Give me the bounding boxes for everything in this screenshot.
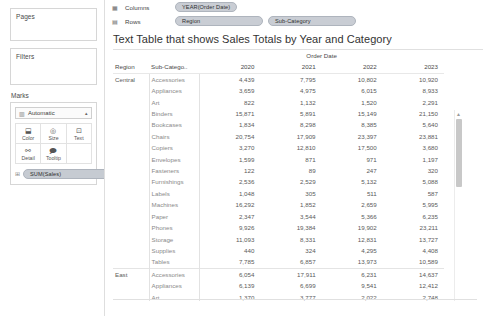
table-row[interactable]: Envelopes1,5998719711,197 — [113, 154, 444, 165]
cell-sales-2023[interactable]: 23,881 — [383, 131, 444, 142]
pill-region[interactable]: Region — [175, 16, 263, 26]
cell-sales-2023[interactable]: 14,637 — [383, 268, 444, 280]
cell-sales-2021[interactable]: 2,529 — [260, 176, 321, 187]
cell-sales-2020[interactable]: 2,536 — [199, 176, 260, 187]
table-row[interactable]: Storage11,0938,33112,83113,727 — [113, 234, 444, 245]
pill-year-order-date[interactable]: YEAR(Order Date) — [175, 2, 237, 12]
cell-sales-2022[interactable]: 9,541 — [322, 280, 383, 291]
cell-sales-2020[interactable]: 11,093 — [199, 234, 260, 245]
cell-sales-2020[interactable]: 3,270 — [199, 142, 260, 153]
marks-tooltip-button[interactable]: 🗩 Tooltip — [41, 144, 66, 164]
cell-sales-2020[interactable]: 3,659 — [199, 85, 260, 96]
cell-sales-2021[interactable]: 871 — [260, 154, 321, 165]
table-row[interactable]: Paper2,3473,5445,3666,235 — [113, 211, 444, 222]
cell-sales-2020[interactable]: 20,754 — [199, 131, 260, 142]
scroll-up-arrow-icon[interactable]: ▲ — [455, 110, 462, 117]
cell-sales-2022[interactable]: 15,149 — [322, 108, 383, 119]
table-row[interactable]: EastAccessories6,05417,9116,23114,637 — [113, 268, 444, 280]
table-row[interactable]: Machines16,2921,8522,6595,995 — [113, 199, 444, 210]
cell-sales-2023[interactable]: 5,995 — [383, 199, 444, 210]
cell-sales-2023[interactable]: 1,197 — [383, 154, 444, 165]
cell-sales-2021[interactable]: 12,810 — [260, 142, 321, 153]
cell-sales-2020[interactable]: 1,048 — [199, 188, 260, 199]
cell-sales-2023[interactable]: 23,211 — [383, 222, 444, 233]
cell-sales-2022[interactable]: 10,802 — [322, 73, 383, 85]
table-row[interactable]: Appliances3,6594,9756,0158,933 — [113, 85, 444, 96]
cell-sales-2022[interactable]: 8,385 — [322, 119, 383, 130]
cell-sales-2021[interactable]: 17,909 — [260, 131, 321, 142]
cell-sales-2021[interactable]: 89 — [260, 165, 321, 176]
cell-sales-2023[interactable]: 21,150 — [383, 108, 444, 119]
cell-sales-2022[interactable]: 17,500 — [322, 142, 383, 153]
cell-sales-2022[interactable]: 511 — [322, 188, 383, 199]
pages-shelf[interactable]: Pages — [10, 8, 97, 41]
cell-sales-2023[interactable]: 587 — [383, 188, 444, 199]
cell-sales-2021[interactable]: 305 — [260, 188, 321, 199]
table-vertical-scrollbar[interactable]: ▲ ▼ — [454, 110, 461, 301]
table-row[interactable]: CentralAccessories4,4397,79510,80210,920 — [113, 73, 444, 85]
cell-sales-2022[interactable]: 19,902 — [322, 222, 383, 233]
cell-sales-2023[interactable]: 5,088 — [383, 176, 444, 187]
cell-sales-2022[interactable]: 2,659 — [322, 199, 383, 210]
table-row[interactable]: Tables7,7856,85713,97310,589 — [113, 256, 444, 268]
cell-sales-2020[interactable]: 6,139 — [199, 280, 260, 291]
mark-type-dropdown[interactable]: ▥ Automatic ▴ — [15, 107, 92, 119]
cell-sales-2020[interactable]: 122 — [199, 165, 260, 176]
cell-sales-2021[interactable]: 6,699 — [260, 280, 321, 291]
cell-sales-2020[interactable]: 6,054 — [199, 268, 260, 280]
rows-shelf[interactable]: ▤ Rows Region Sub-Category — [105, 14, 483, 28]
cell-sales-2021[interactable]: 324 — [260, 245, 321, 256]
filters-shelf[interactable]: Filters — [10, 48, 97, 85]
scrollbar-thumb[interactable] — [456, 119, 462, 187]
table-row[interactable]: Bookcases1,8348,2988,3855,640 — [113, 119, 444, 130]
cell-sales-2021[interactable]: 8,331 — [260, 234, 321, 245]
cell-sales-2021[interactable]: 8,298 — [260, 119, 321, 130]
cell-sales-2022[interactable]: 13,973 — [322, 256, 383, 268]
cell-sales-2020[interactable]: 1,834 — [199, 119, 260, 130]
cell-sales-2020[interactable]: 822 — [199, 97, 260, 108]
cell-sales-2023[interactable]: 13,727 — [383, 234, 444, 245]
cell-sales-2023[interactable]: 2,291 — [383, 97, 444, 108]
cell-sales-2022[interactable]: 5,366 — [322, 211, 383, 222]
table-row[interactable]: Binders15,8715,89115,14921,150 — [113, 108, 444, 119]
columns-shelf[interactable]: ▦ Columns YEAR(Order Date) — [105, 0, 483, 14]
table-row[interactable]: Furnishings2,5362,5295,1325,088 — [113, 176, 444, 187]
cell-sales-2020[interactable]: 2,347 — [199, 211, 260, 222]
cell-sales-2023[interactable]: 6,235 — [383, 211, 444, 222]
cell-sales-2021[interactable]: 7,795 — [260, 73, 321, 85]
cell-sales-2021[interactable]: 6,857 — [260, 256, 321, 268]
marks-size-button[interactable]: ◎ Size — [41, 124, 66, 144]
cell-sales-2023[interactable]: 8,933 — [383, 85, 444, 96]
table-row[interactable]: Chairs20,75417,90923,39723,881 — [113, 131, 444, 142]
table-row[interactable]: Fasteners12289247320 — [113, 165, 444, 176]
cell-sales-2021[interactable]: 1,852 — [260, 199, 321, 210]
cell-sales-2020[interactable]: 7,785 — [199, 256, 260, 268]
cell-sales-2023[interactable]: 3,680 — [383, 142, 444, 153]
cell-sales-2020[interactable]: 9,926 — [199, 222, 260, 233]
cell-sales-2023[interactable]: 10,589 — [383, 256, 444, 268]
cell-sales-2021[interactable]: 17,911 — [260, 268, 321, 280]
cell-sales-2022[interactable]: 971 — [322, 154, 383, 165]
table-row[interactable]: Copiers3,27012,81017,5003,680 — [113, 142, 444, 153]
table-row[interactable]: Phones9,92619,38419,90223,211 — [113, 222, 444, 233]
cell-sales-2022[interactable]: 23,397 — [322, 131, 383, 142]
marks-sum-sales-pill[interactable]: SUM(Sales) — [23, 169, 111, 179]
cell-sales-2023[interactable]: 5,640 — [383, 119, 444, 130]
cell-sales-2023[interactable]: 4,408 — [383, 245, 444, 256]
cell-sales-2021[interactable]: 19,384 — [260, 222, 321, 233]
cell-sales-2022[interactable]: 247 — [322, 165, 383, 176]
cell-sales-2023[interactable]: 320 — [383, 165, 444, 176]
pill-sub-category[interactable]: Sub-Category — [268, 16, 356, 26]
cell-sales-2021[interactable]: 3,544 — [260, 211, 321, 222]
cell-sales-2022[interactable]: 12,831 — [322, 234, 383, 245]
cell-sales-2021[interactable]: 4,975 — [260, 85, 321, 96]
marks-text-button[interactable]: ⊡ Text — [67, 124, 92, 144]
table-row[interactable]: Appliances6,1396,6999,54112,412 — [113, 280, 444, 291]
table-row[interactable]: Supplies4403244,2954,408 — [113, 245, 444, 256]
cell-sales-2020[interactable]: 15,871 — [199, 108, 260, 119]
cell-sales-2022[interactable]: 5,132 — [322, 176, 383, 187]
cell-sales-2022[interactable]: 4,295 — [322, 245, 383, 256]
cell-sales-2021[interactable]: 1,132 — [260, 97, 321, 108]
cell-sales-2023[interactable]: 10,920 — [383, 73, 444, 85]
cell-sales-2020[interactable]: 1,599 — [199, 154, 260, 165]
